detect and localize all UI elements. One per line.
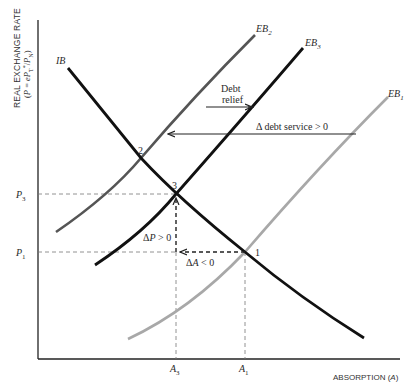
y-axis-formula: (P = ePT*/PN) bbox=[22, 50, 34, 98]
delta-a-label: ΔA < 0 bbox=[186, 257, 214, 268]
point-3-label: 3 bbox=[172, 180, 177, 191]
point-1-label: 1 bbox=[255, 247, 260, 258]
label-eb1: EB1 bbox=[387, 88, 404, 102]
debt-relief-line1: Debt bbox=[221, 83, 241, 94]
curve-eb1 bbox=[128, 97, 388, 339]
tick-p1: P1 bbox=[15, 247, 26, 261]
label-eb2: EB2 bbox=[255, 23, 272, 37]
x-axis-label: ABSORPTION (A) bbox=[333, 373, 399, 382]
y-axis-label: REAL EXCHANGE RATE bbox=[12, 8, 22, 108]
tick-a3: A3 bbox=[169, 363, 180, 377]
debt-service-label: Δ debt service > 0 bbox=[256, 121, 328, 132]
delta-p-label: ΔP > 0 bbox=[143, 232, 171, 243]
debt-relief-line2: relief bbox=[222, 94, 244, 105]
tick-p3: P3 bbox=[15, 189, 26, 203]
curve-eb3 bbox=[95, 48, 303, 265]
label-eb3: EB3 bbox=[304, 37, 321, 51]
diagram: REAL EXCHANGE RATE (P = ePT*/PN) ABSORPT… bbox=[0, 0, 417, 389]
curve-ib bbox=[68, 68, 364, 338]
label-ib: IB bbox=[55, 55, 65, 66]
tick-a1: A1 bbox=[238, 363, 249, 377]
point-2-label: 2 bbox=[138, 145, 143, 156]
